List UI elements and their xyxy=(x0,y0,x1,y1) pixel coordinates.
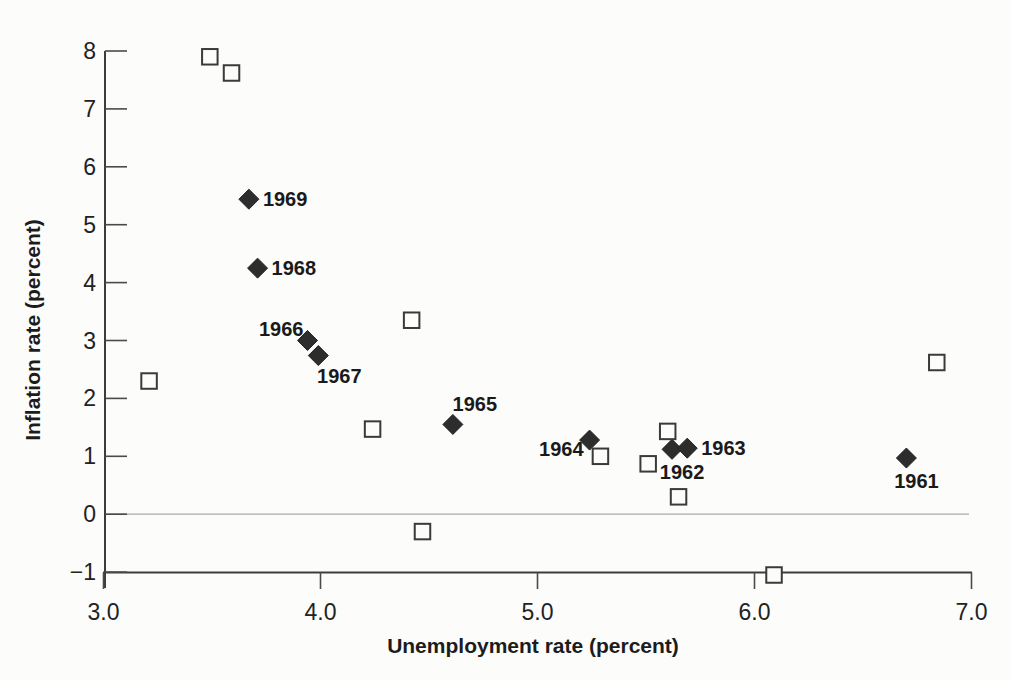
y-tick-label: 5 xyxy=(83,212,96,238)
scatter-point-diamond-1963 xyxy=(677,438,697,458)
year-label-1965: 1965 xyxy=(453,393,498,415)
data-points-layer xyxy=(141,49,944,583)
scatter-point-diamond-1968 xyxy=(248,258,268,278)
year-label-1962: 1962 xyxy=(660,461,705,483)
scatter-point-diamond-1969 xyxy=(239,189,259,209)
x-tick-label: 3.0 xyxy=(88,599,120,625)
scatter-point-square xyxy=(640,456,656,472)
year-label-1963: 1963 xyxy=(701,437,746,459)
year-label-1968: 1968 xyxy=(272,257,317,279)
scatter-point-diamond-1965 xyxy=(443,414,463,434)
scatter-point-square xyxy=(404,312,420,328)
y-tick-label: −1 xyxy=(70,559,96,585)
scatter-point-square xyxy=(224,65,240,81)
scatter-point-square xyxy=(415,524,431,540)
scatter-point-square xyxy=(365,421,381,437)
scatter-point-diamond-1961 xyxy=(896,448,916,468)
year-label-1966: 1966 xyxy=(259,318,304,340)
scatter-point-diamond-1967 xyxy=(308,346,328,366)
x-axis-title: Unemployment rate (percent) xyxy=(387,634,679,657)
y-axis-title: Inflation rate (percent) xyxy=(21,219,44,441)
scatter-point-square xyxy=(671,489,687,505)
year-label-1969: 1969 xyxy=(263,188,308,210)
scatter-point-square xyxy=(593,449,609,465)
y-tick-label: 6 xyxy=(83,154,96,180)
x-tick-label: 6.0 xyxy=(739,599,771,625)
year-labels-layer: 196119621963196419651966196719681969 xyxy=(259,188,939,492)
y-tick-label: 3 xyxy=(83,328,96,354)
y-tick-label: 0 xyxy=(83,501,96,527)
scatter-point-square xyxy=(929,355,945,371)
year-label-1967: 1967 xyxy=(317,365,362,387)
scatter-point-square xyxy=(766,567,782,583)
x-tick-label: 7.0 xyxy=(956,599,988,625)
y-tick-label: 1 xyxy=(83,443,96,469)
scatter-point-square xyxy=(660,424,676,440)
x-tick-label: 5.0 xyxy=(522,599,554,625)
year-label-1964: 1964 xyxy=(539,438,584,460)
tick-labels-layer: 876543210−13.04.05.06.07.0 xyxy=(70,38,988,625)
y-tick-label: 2 xyxy=(83,385,96,411)
y-tick-label: 8 xyxy=(83,38,96,64)
phillips-curve-figure: 876543210−13.04.05.06.07.0 1961196219631… xyxy=(0,0,1011,680)
y-tick-label: 7 xyxy=(83,96,96,122)
scatter-chart: 876543210−13.04.05.06.07.0 1961196219631… xyxy=(0,0,1011,680)
y-tick-label: 4 xyxy=(83,270,96,296)
x-tick-label: 4.0 xyxy=(305,599,337,625)
scatter-point-square xyxy=(202,49,218,65)
year-label-1961: 1961 xyxy=(894,470,939,492)
scatter-point-square xyxy=(141,373,157,389)
axes-layer xyxy=(103,51,972,589)
